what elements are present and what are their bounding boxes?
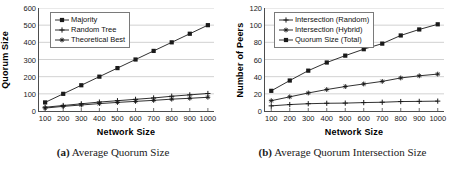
legend-label: Quorum Size (Total): [294, 35, 362, 45]
y-tick-label: 0: [258, 107, 262, 116]
x-tick-label: 900: [184, 114, 197, 123]
y-tick-label: 300: [23, 55, 36, 64]
x-tick-label: 1000: [200, 114, 217, 123]
legend-marker-icon: [54, 25, 70, 35]
chart-b: Number of Peers 020406080100120 10020030…: [226, 0, 459, 142]
x-tick-labels-b: 1002003004005006007008009001000: [264, 114, 444, 126]
legend-label: Random Tree: [70, 25, 116, 35]
legend-marker-icon: [278, 35, 294, 45]
legend-item[interactable]: Intersection (Random): [278, 15, 369, 25]
legend-label: Majority: [70, 15, 97, 25]
x-tick-label: 600: [357, 114, 370, 123]
legend-item[interactable]: Quorum Size (Total): [278, 35, 369, 45]
x-tick-label: 300: [302, 114, 315, 123]
y-tick-label: 120: [249, 4, 262, 13]
x-tick-label: 500: [339, 114, 352, 123]
x-tick-label: 100: [265, 114, 278, 123]
y-tick-label: 40: [254, 72, 262, 81]
y-tick-label: 500: [23, 21, 36, 30]
x-tick-label: 700: [376, 114, 389, 123]
y-tick-label: 80: [254, 38, 262, 47]
x-tick-label: 400: [320, 114, 333, 123]
y-tick-label: 200: [23, 72, 36, 81]
legend-label: Intersection (Hybrid): [294, 25, 363, 35]
legend-b[interactable]: Intersection (Random)Intersection (Hybri…: [274, 12, 374, 48]
x-axis-title-b: Network Size: [264, 127, 444, 137]
caption-tag-a: (a): [57, 146, 70, 158]
x-tick-label: 800: [394, 114, 407, 123]
caption-text-a: Average Quorum Size: [72, 146, 170, 158]
y-tick-label: 100: [23, 89, 36, 98]
legend-a[interactable]: MajorityRandom TreeTheoretical Best: [50, 12, 130, 48]
subfigure-b: Number of Peers 020406080100120 10020030…: [226, 0, 459, 158]
subfigure-a: Quorum Size 0100200300400500600 10020030…: [0, 0, 226, 158]
y-tick-label: 60: [254, 55, 262, 64]
caption-b: (b) Average Quorum Intersection Size: [259, 146, 427, 158]
x-tick-labels-a: 1002003004005006007008009001000: [38, 114, 214, 126]
y-tick-labels-a: 0100200300400500600: [14, 8, 36, 112]
legend-label: Theoretical Best: [70, 35, 125, 45]
x-tick-label: 200: [283, 114, 296, 123]
x-tick-label: 900: [413, 114, 426, 123]
x-tick-label: 100: [39, 114, 52, 123]
legend-marker-icon: [278, 15, 294, 25]
x-axis-title-a: Network Size: [38, 127, 214, 137]
caption-tag-b: (b): [259, 146, 272, 158]
x-tick-label: 200: [57, 114, 70, 123]
y-tick-labels-b: 020406080100120: [240, 8, 262, 112]
legend-item[interactable]: Theoretical Best: [54, 35, 125, 45]
legend-marker-icon: [54, 35, 70, 45]
y-tick-label: 100: [249, 21, 262, 30]
figure-row: Quorum Size 0100200300400500600 10020030…: [0, 0, 459, 180]
legend-marker-icon: [54, 15, 70, 25]
x-tick-label: 700: [147, 114, 160, 123]
x-tick-label: 400: [93, 114, 106, 123]
legend-label: Intersection (Random): [294, 15, 369, 25]
caption-a: (a) Average Quorum Size: [57, 146, 170, 158]
x-tick-label: 800: [165, 114, 178, 123]
legend-item[interactable]: Random Tree: [54, 25, 125, 35]
legend-item[interactable]: Intersection (Hybrid): [278, 25, 369, 35]
y-tick-label: 400: [23, 38, 36, 47]
x-tick-label: 600: [129, 114, 142, 123]
chart-a: Quorum Size 0100200300400500600 10020030…: [0, 0, 226, 142]
x-tick-label: 500: [111, 114, 124, 123]
legend-marker-icon: [278, 25, 294, 35]
x-tick-label: 1000: [429, 114, 446, 123]
y-tick-label: 0: [32, 107, 36, 116]
x-tick-label: 300: [75, 114, 88, 123]
caption-text-b: Average Quorum Intersection Size: [274, 146, 426, 158]
y-tick-label: 600: [23, 4, 36, 13]
y-axis-title-a: Quorum Size: [0, 31, 10, 89]
y-tick-label: 20: [254, 89, 262, 98]
legend-item[interactable]: Majority: [54, 15, 125, 25]
